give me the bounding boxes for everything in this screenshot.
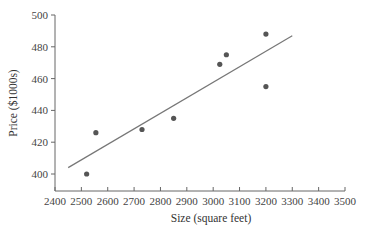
y-tick-label: 460 (32, 73, 49, 85)
x-axis-title: Size (square feet) (171, 212, 252, 225)
y-tick-label: 440 (32, 104, 49, 116)
x-tick-label: 3500 (334, 195, 357, 207)
data-point (93, 130, 98, 135)
data-point (217, 62, 222, 67)
trend-line (68, 36, 292, 168)
x-tick-label: 2500 (70, 195, 93, 207)
scatter-chart: 4004204404604805002400250026002700280029… (0, 0, 366, 239)
x-tick-label: 3400 (308, 195, 331, 207)
data-point (171, 116, 176, 121)
x-tick-label: 3300 (281, 195, 304, 207)
data-point (139, 127, 144, 132)
y-tick-label: 420 (32, 136, 49, 148)
x-tick-label: 2900 (176, 195, 199, 207)
y-tick-label: 500 (32, 9, 49, 21)
data-point (263, 31, 268, 36)
data-point (263, 84, 268, 89)
data-point (84, 171, 89, 176)
y-tick-label: 400 (32, 168, 49, 180)
x-tick-label: 2800 (149, 195, 172, 207)
x-tick-label: 2700 (123, 195, 146, 207)
x-tick-label: 3100 (229, 195, 252, 207)
x-tick-label: 2600 (97, 195, 120, 207)
x-tick-label: 3000 (202, 195, 225, 207)
y-axis-title: Price ($1000s) (7, 69, 20, 137)
axes: 4004204404604805002400250026002700280029… (32, 9, 357, 207)
y-tick-label: 480 (32, 41, 49, 53)
data-point (224, 52, 229, 57)
x-tick-label: 2400 (44, 195, 67, 207)
regression-line (68, 36, 292, 168)
x-tick-label: 3200 (255, 195, 278, 207)
